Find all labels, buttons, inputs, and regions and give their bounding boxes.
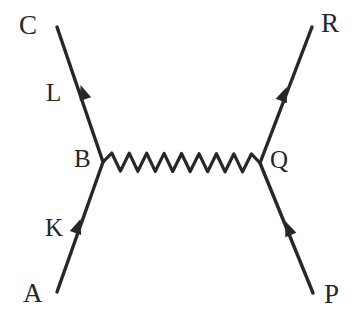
particle-label-a: A xyxy=(23,280,43,307)
arrowhead-incoming-fermion-left xyxy=(70,219,81,235)
particle-label-r: R xyxy=(321,10,339,37)
arrowhead-incoming-fermion-right xyxy=(285,221,296,237)
feynman-diagram: C R A P L K B Q xyxy=(0,0,361,315)
vertex-label-q: Q xyxy=(270,147,288,172)
arrowhead-outgoing-fermion-left xyxy=(80,85,91,101)
feynman-diagram-canvas xyxy=(0,0,361,315)
wavy-boson-propagator xyxy=(103,153,260,172)
vertex-label-b: B xyxy=(74,146,91,171)
momentum-label-l: L xyxy=(46,80,61,105)
arrowhead-outgoing-fermion-right xyxy=(276,87,287,103)
momentum-label-k: K xyxy=(45,215,63,240)
particle-label-c: C xyxy=(19,12,37,39)
line-outgoing-fermion-left xyxy=(57,27,103,162)
particle-label-p: P xyxy=(324,281,339,308)
